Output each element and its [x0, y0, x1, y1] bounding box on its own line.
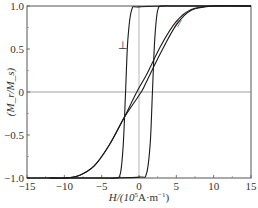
y-tick-label: 1.0	[10, 0, 24, 12]
x-tick-label: 15	[246, 180, 258, 192]
y-axis-label: (M_r/M_s)	[4, 68, 17, 117]
x-tick-label: 10	[208, 180, 220, 192]
y-tick-label: −1.0	[4, 172, 24, 184]
y-tick-label: 0	[19, 86, 25, 98]
x-tick-label: −5	[96, 180, 108, 192]
x-tick-label: −10	[56, 180, 74, 192]
curve-annotation: ⊥	[118, 39, 128, 51]
x-tick-label: 5	[174, 180, 180, 192]
axis-ticks: −15−10−5051015−1.0−0.500.51.0	[4, 0, 257, 192]
y-tick-label: 0.5	[10, 43, 24, 55]
x-axis-label: H/(105A·m−1)	[108, 191, 170, 204]
hysteresis-chart: −15−10−5051015−1.0−0.500.51.0 ⊥// (M_r/M…	[0, 0, 258, 208]
y-tick-label: −0.5	[4, 129, 24, 141]
reference-lines	[27, 6, 251, 178]
curve-annotation: //	[174, 17, 182, 29]
